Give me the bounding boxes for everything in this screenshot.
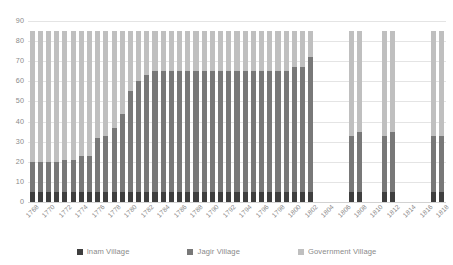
bar-1791 — [218, 21, 223, 202]
x-tick-label: 1770 — [41, 203, 57, 219]
bar-segment — [300, 31, 305, 67]
legend-label: Inam Village — [87, 248, 130, 256]
x-tick-label: 1782 — [139, 203, 155, 219]
bar-segment — [382, 192, 387, 202]
bar-segment — [234, 31, 239, 71]
x-tick-label: 1786 — [172, 203, 188, 219]
x-tick-label: 1788 — [188, 203, 204, 219]
x-tick-label: 1800 — [287, 203, 303, 219]
legend-item[interactable]: Inam Village — [77, 248, 130, 256]
bar-segment — [30, 192, 35, 202]
x-tick-label: 1774 — [74, 203, 90, 219]
bar-segment — [120, 114, 125, 192]
bar-segment — [267, 31, 272, 71]
bar-segment — [259, 192, 264, 202]
bar-1790 — [210, 21, 215, 202]
bar-segment — [62, 160, 67, 192]
legend-swatch-icon — [298, 249, 304, 255]
bar-segment — [390, 192, 395, 202]
bar-segment — [382, 136, 387, 192]
bar-segment — [30, 31, 35, 162]
x-tick-label: 1804 — [319, 203, 335, 219]
bar-1798 — [275, 21, 280, 202]
y-tick-label: 20 — [2, 158, 24, 165]
bar-segment — [349, 31, 354, 136]
bar-1797 — [267, 21, 272, 202]
y-tick-label: 70 — [2, 57, 24, 64]
bar-1788 — [193, 21, 198, 202]
bar-1783 — [152, 21, 157, 202]
bar-segment — [54, 192, 59, 202]
x-tick-label: 1778 — [106, 203, 122, 219]
legend-label: Jagir Village — [197, 248, 240, 256]
legend-item[interactable]: Government Village — [298, 248, 376, 256]
bar-segment — [243, 31, 248, 71]
x-tick-label: 1810 — [369, 203, 385, 219]
bar-segment — [95, 192, 100, 202]
bar-segment — [30, 162, 35, 192]
bar-segment — [169, 71, 174, 192]
bar-segment — [136, 31, 141, 81]
bar-segment — [243, 192, 248, 202]
bar-segment — [79, 156, 84, 192]
legend-swatch-icon — [77, 249, 83, 255]
bar-segment — [210, 192, 215, 202]
bar-segment — [357, 192, 362, 202]
bar-1768 — [30, 21, 35, 202]
bar-1771 — [54, 21, 59, 202]
y-tick-label: 40 — [2, 118, 24, 125]
bar-1818 — [439, 21, 444, 202]
x-tick-label: 1806 — [336, 203, 352, 219]
bar-segment — [120, 192, 125, 202]
bar-segment — [95, 31, 100, 138]
x-tick-label: 1798 — [270, 203, 286, 219]
legend-item[interactable]: Jagir Village — [187, 248, 240, 256]
bar-1817 — [431, 21, 436, 202]
bar-segment — [259, 31, 264, 71]
bar-segment — [202, 31, 207, 71]
bar-1787 — [185, 21, 190, 202]
bar-1776 — [95, 21, 100, 202]
bar-segment — [275, 192, 280, 202]
bar-1799 — [284, 21, 289, 202]
y-tick-label: 10 — [2, 178, 24, 185]
bar-segment — [226, 31, 231, 71]
plot-area — [28, 21, 446, 202]
x-tick-label: 1784 — [156, 203, 172, 219]
bar-segment — [87, 156, 92, 192]
bar-segment — [431, 192, 436, 202]
bar-1769 — [38, 21, 43, 202]
bar-segment — [439, 192, 444, 202]
bar-segment — [71, 160, 76, 192]
y-axis: 0102030405060708090 — [0, 21, 24, 202]
bar-1773 — [71, 21, 76, 202]
x-tick-label: 1808 — [352, 203, 368, 219]
bar-segment — [112, 128, 117, 192]
bar-1781 — [136, 21, 141, 202]
bar-segment — [218, 192, 223, 202]
bar-segment — [103, 136, 108, 192]
bar-segment — [218, 71, 223, 192]
bar-1801 — [300, 21, 305, 202]
bar-1795 — [251, 21, 256, 202]
bar-segment — [357, 132, 362, 192]
bar-segment — [185, 71, 190, 192]
bar-segment — [308, 192, 313, 202]
bar-segment — [112, 192, 117, 202]
bar-1793 — [234, 21, 239, 202]
x-tick-label: 1814 — [401, 203, 417, 219]
bar-segment — [251, 31, 256, 71]
bar-segment — [177, 31, 182, 71]
bar-segment — [284, 71, 289, 192]
bar-1772 — [62, 21, 67, 202]
bar-segment — [292, 67, 297, 192]
x-tick-label: 1802 — [303, 203, 319, 219]
y-tick-label: 0 — [2, 198, 24, 205]
x-tick-label: 1792 — [221, 203, 237, 219]
x-tick-label: 1776 — [90, 203, 106, 219]
bar-segment — [300, 67, 305, 192]
bar-segment — [169, 31, 174, 71]
bar-segment — [185, 192, 190, 202]
bar-1807 — [349, 21, 354, 202]
bar-segment — [439, 136, 444, 192]
